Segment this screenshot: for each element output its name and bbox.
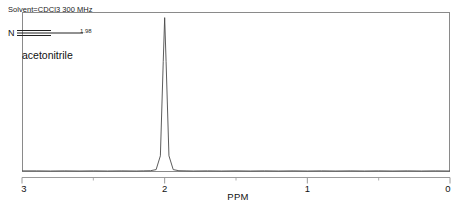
- axis-title-ppm: PPM: [227, 191, 249, 202]
- axis-tick-label: 1: [305, 183, 310, 194]
- axis-tick-label: 3: [21, 183, 26, 194]
- axis-tick-label: 2: [162, 183, 167, 194]
- nmr-spectrum-figure: Solvent=CDCl3 300 MHz N 1.98 acetonitril…: [0, 0, 476, 213]
- axis-tick-group: [22, 178, 450, 184]
- ppm-axis: [0, 0, 476, 213]
- axis-tick-label: 0: [445, 183, 450, 194]
